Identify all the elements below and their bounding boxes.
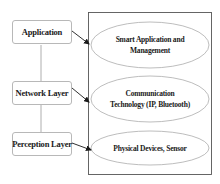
component-label-line1: Smart Application and xyxy=(116,34,185,45)
component-label-line1: Communication xyxy=(125,88,174,99)
layer-box-perception: Perception Layer xyxy=(12,132,72,156)
arrow-network xyxy=(72,88,89,102)
layer-label: Perception Layer xyxy=(12,139,72,149)
layer-label: Network Layer xyxy=(16,88,69,98)
layer-label: Application xyxy=(22,27,62,37)
component-label-line2: Management xyxy=(130,45,170,56)
component-communication-technology: Communication Technology (IP, Bluetooth) xyxy=(100,87,200,111)
layer-box-application: Application xyxy=(12,20,72,44)
component-label-line2: Technology (IP, Bluetooth) xyxy=(110,99,190,110)
arrow-application xyxy=(72,31,89,44)
component-smart-application: Smart Application and Management xyxy=(100,33,200,57)
iot-architecture-diagram: Application Network Layer Perception Lay… xyxy=(0,0,220,184)
component-physical-devices: Physical Devices, Sensor xyxy=(100,142,200,154)
component-label-line1: Physical Devices, Sensor xyxy=(113,143,186,154)
layer-box-network: Network Layer xyxy=(12,81,72,105)
